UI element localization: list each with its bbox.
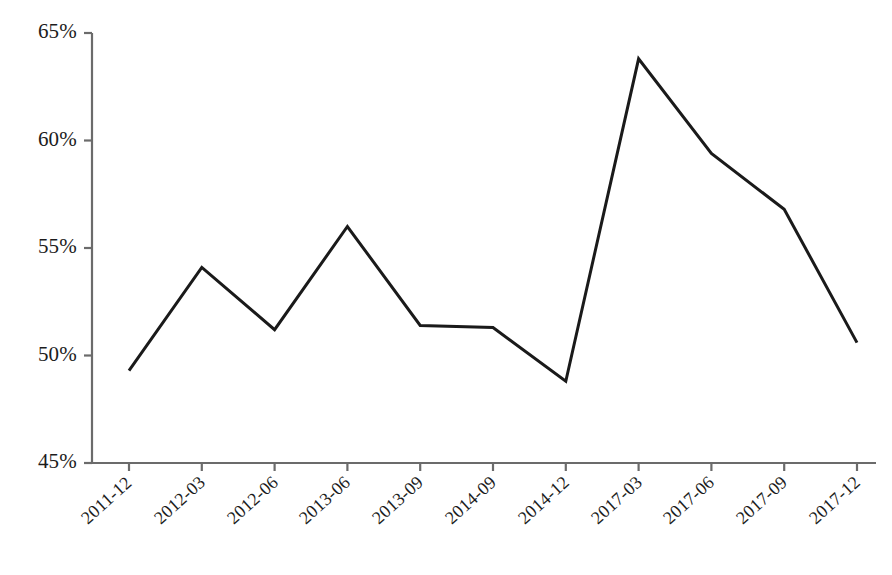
x-axis-ticks — [129, 463, 857, 471]
y-axis-tick-label: 55% — [38, 234, 77, 259]
data-series-line — [129, 59, 857, 382]
y-axis-tick-label: 50% — [38, 342, 77, 367]
chart-axes — [92, 33, 876, 463]
y-axis-tick-label: 45% — [38, 449, 77, 474]
y-axis-tick-label: 65% — [38, 19, 77, 44]
line-chart: 45%50%55%60%65% 2011-122012-032012-06201… — [0, 0, 892, 575]
y-axis-ticks — [84, 33, 92, 463]
y-axis-tick-label: 60% — [38, 127, 77, 152]
